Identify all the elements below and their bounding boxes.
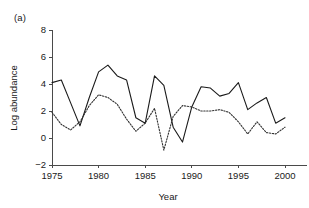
y-tick-label: 6 — [41, 51, 46, 62]
x-tick-label: 1980 — [88, 170, 109, 181]
y-axis-title: Log abundance — [8, 65, 19, 131]
y-tick-label: 4 — [41, 78, 46, 89]
y-tick-label: 8 — [41, 24, 46, 35]
y-tick-label: 2 — [41, 105, 46, 116]
x-tick-label: 1975 — [41, 170, 62, 181]
y-axis: −202468 — [35, 24, 52, 170]
figure-panel: (a) −202468 197519801985199019952000 Log… — [0, 0, 309, 208]
x-tick-label: 1985 — [135, 170, 156, 181]
y-tick-label: 0 — [41, 132, 46, 143]
series-container — [52, 65, 285, 150]
x-axis: 197519801985199019952000 — [41, 165, 307, 181]
x-tick-label: 2000 — [274, 170, 295, 181]
x-tick-label: 1995 — [228, 170, 249, 181]
y-tick-label: −2 — [35, 159, 46, 170]
x-axis-title: Year — [158, 191, 177, 202]
x-tick-label: 1990 — [181, 170, 202, 181]
line-chart: −202468 197519801985199019952000 Log abu… — [0, 0, 309, 208]
